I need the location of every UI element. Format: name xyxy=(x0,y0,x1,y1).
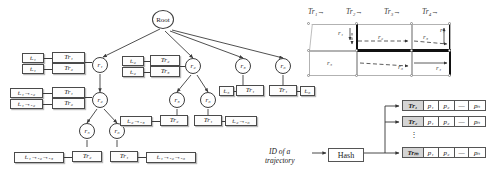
figure-root: Root r₁ r₂ r₃ r₆ r₂ r₃ r₆ r₅ r₆ tᵣ₁ Tr₁ … xyxy=(0,0,490,180)
tree-node-r2-level2[interactable]: r₂ xyxy=(92,92,108,108)
grid-label-r3: r₃ xyxy=(423,33,428,41)
tree-node-r1-label: r₁ xyxy=(97,61,102,69)
connector xyxy=(43,104,52,105)
hash-row-cell: p₁ xyxy=(424,117,440,126)
tree-node-r5-level1-label: r₃ xyxy=(240,62,245,70)
tree-box-r6-val[interactable]: Tr₁ xyxy=(269,85,297,96)
tree-box-r2-val1[interactable]: Tr₁ xyxy=(52,87,85,98)
grid-diagram: Tr₁→ Tr₂→ Tr₃→ Tr₄→ xyxy=(300,0,490,90)
box-text: tᵣ₂ xyxy=(130,69,136,76)
tree-box-tr1-val1[interactable]: Tr₁ xyxy=(52,52,85,63)
tree-node-root[interactable]: Root xyxy=(152,10,174,29)
box-text: Tr₁ xyxy=(246,87,255,94)
tree-box-tr1-key1[interactable]: tᵣ₁ xyxy=(22,53,44,63)
tree-box-mid-key1[interactable]: tᵣ₂ xyxy=(122,56,144,66)
hash-row-cell: pₙ xyxy=(469,117,485,126)
hash-table-ellipsis: ⋮ xyxy=(410,130,418,139)
box-text: Tr₁ xyxy=(120,153,129,160)
tree-box-l2-val2[interactable]: Tr₁ xyxy=(194,115,222,126)
box-text: Tr₁ xyxy=(279,87,288,94)
hash-row-cell: — xyxy=(455,117,470,126)
box-text: Tr₂ xyxy=(64,65,73,72)
tree-box-bottom-val2[interactable]: Tr₁ xyxy=(110,151,138,162)
box-text: Tr₃ xyxy=(161,68,170,75)
box-text: tᵣ₂ xyxy=(130,58,136,65)
tree-node-r2-level2-label: r₂ xyxy=(97,96,102,104)
tree-box-r5-key[interactable]: tᵣ₅ xyxy=(219,86,234,96)
hash-row-key: Trₘ xyxy=(403,148,424,157)
connector xyxy=(64,157,72,158)
hash-table-row-1[interactable]: Tr₁ p₁ p₂ — pₙ xyxy=(402,100,486,111)
hash-row-cell: pₙ xyxy=(469,148,485,157)
tree-box-r2-val2[interactable]: Tr₂ xyxy=(52,98,85,109)
grid-label-r4: r₄ xyxy=(436,64,441,72)
tree-node-root-label: Root xyxy=(156,16,170,24)
box-text: tᵣ₂→ᵣ₃ xyxy=(127,118,144,125)
box-text: Tr₂ xyxy=(161,57,170,64)
hash-row-cell: p₁ xyxy=(424,148,440,157)
tree-node-r2[interactable]: r₂ xyxy=(185,58,201,74)
connector xyxy=(85,97,92,98)
grid-label-r6: r₆ xyxy=(398,63,403,71)
hash-input-line1: ID of a xyxy=(269,147,290,156)
tree-node-r3-level2[interactable]: r₃ xyxy=(169,92,185,108)
box-text: Tr₂ xyxy=(64,100,73,107)
grid-label-r7: r₇ xyxy=(440,26,445,34)
connector xyxy=(44,69,52,70)
tree-box-l2-key1[interactable]: tᵣ₂→ᵣ₃ xyxy=(120,116,152,126)
tree-node-r6-level2-label: r₆ xyxy=(205,96,210,104)
grid-trajectory-arrows xyxy=(300,0,490,90)
tree-box-r2-key2[interactable]: tᵣ₁→ᵣ₂ xyxy=(10,99,43,109)
tree-node-r5-level1[interactable]: r₃ xyxy=(235,58,251,74)
box-text: tᵣ₂→ᵣ₆ xyxy=(232,118,249,125)
tree-node-r3-level2-label: r₃ xyxy=(174,96,179,104)
hash-table-row-2[interactable]: Tr₂ p₁ p₂ — pₙ xyxy=(402,116,486,127)
tree-node-r6-level2[interactable]: r₆ xyxy=(200,92,216,108)
hash-row-cell: p₂ xyxy=(439,101,455,110)
hash-row-cell: — xyxy=(455,148,470,157)
connector xyxy=(144,72,150,73)
connector xyxy=(234,91,236,92)
tree-box-mid-val2[interactable]: Tr₃ xyxy=(150,66,180,77)
tree-box-tr1-val2[interactable]: Tr₂ xyxy=(52,63,85,74)
box-text: tᵣ₁→ᵣ₂→ᵣ₆ xyxy=(157,154,185,161)
tree-box-bottom-key1[interactable]: tᵣ₁→ᵣ₂→ᵣ₃ xyxy=(14,152,64,163)
box-text: tᵣ₁→ᵣ₂ xyxy=(18,101,35,108)
tree-box-mid-val1[interactable]: Tr₂ xyxy=(150,55,180,66)
connector xyxy=(180,66,185,67)
tree-box-l2-key2[interactable]: tᵣ₂→ᵣ₆ xyxy=(225,116,257,126)
connector xyxy=(152,121,160,122)
tree-box-mid-key2[interactable]: tᵣ₂ xyxy=(122,67,144,77)
tree-box-bottom-val1[interactable]: Tr₂ xyxy=(72,151,102,162)
tree-box-r2-key1[interactable]: tᵣ₁→ᵣ₂ xyxy=(10,88,43,98)
hash-row-cell: p₂ xyxy=(439,117,455,126)
connector xyxy=(138,157,146,158)
connector xyxy=(43,93,52,94)
tree-node-r2-label: r₂ xyxy=(190,62,195,70)
connector xyxy=(144,61,150,62)
hash-table-row-m[interactable]: Trₘ p₁ p₂ — pₙ xyxy=(402,147,486,158)
hash-row-cell: p₁ xyxy=(424,101,440,110)
hash-input-line2: trajectory xyxy=(265,156,295,165)
box-text: tᵣ₁ xyxy=(30,55,36,62)
tree-box-bottom-key2[interactable]: tᵣ₁→ᵣ₂→ᵣ₆ xyxy=(146,152,196,163)
box-text: tᵣ₁ xyxy=(30,66,36,73)
box-text: tᵣ₁→ᵣ₂→ᵣ₃ xyxy=(25,154,53,161)
connector xyxy=(85,62,92,63)
tree-node-r5-level3[interactable]: r₅ xyxy=(79,123,95,139)
tree-node-r6-level1[interactable]: r₆ xyxy=(275,58,291,74)
connector xyxy=(297,91,300,92)
tree-node-r5-level3-label: r₅ xyxy=(84,127,89,135)
box-text: Tr₁ xyxy=(64,54,73,61)
hash-row-cell: pₙ xyxy=(469,101,485,110)
box-text: Tr₂ xyxy=(83,153,92,160)
tree-box-l2-val1[interactable]: Tr₂ xyxy=(160,115,188,126)
hash-row-key: Tr₁ xyxy=(403,101,424,110)
box-text: Tr₁ xyxy=(204,117,213,124)
tree-box-tr1-key2[interactable]: tᵣ₁ xyxy=(22,64,44,74)
box-text: Tr₂ xyxy=(170,117,179,124)
tree-box-r5-val[interactable]: Tr₁ xyxy=(236,85,264,96)
tree-node-r1[interactable]: r₁ xyxy=(92,57,108,73)
tree-node-r6-level1-label: r₆ xyxy=(280,62,285,70)
tree-node-r6-level3-label: r₆ xyxy=(114,127,119,135)
